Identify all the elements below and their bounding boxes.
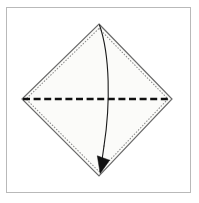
origami-step-figure [0, 0, 199, 203]
origami-diagram-page: Origami step: valley fold square in half… [0, 0, 199, 203]
diagram-frame [0, 0, 199, 203]
